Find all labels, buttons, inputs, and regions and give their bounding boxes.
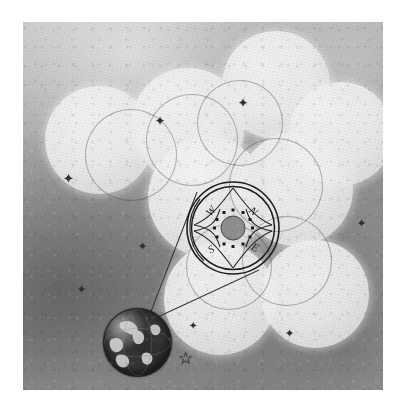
star-icon: ✦ [189,321,197,331]
earth-globe [103,308,172,377]
star-icon: ✦ [155,115,165,127]
star-icon: ✦ [238,97,248,109]
star-icon: ✦ [77,284,86,295]
artwork-canvas: ✦ ✦ ✦ ✦ ✦ ✦ ✦ ✦ ☆ [0,0,408,419]
star-icon: ✦ [138,241,147,252]
star-icon: ☆ [178,350,193,367]
star-icon: ✦ [285,328,294,339]
artwork-image: ✦ ✦ ✦ ✦ ✦ ✦ ✦ ✦ ☆ [23,22,383,390]
compass-rose: W N S E [186,181,280,275]
star-icon: ✦ [63,172,74,185]
star-icon: ✦ [357,218,366,229]
